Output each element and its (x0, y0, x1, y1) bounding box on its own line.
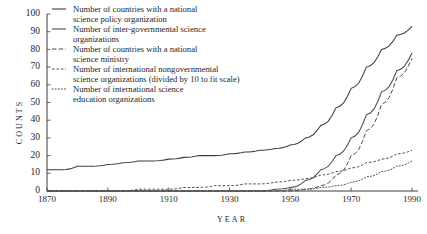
chart-figure: 0102030405060708090100 18701890191019301… (0, 0, 427, 234)
svg-text:1990: 1990 (403, 194, 422, 204)
svg-text:40: 40 (31, 114, 41, 124)
legend-label-4-line1: Number of international nongovernmental (73, 64, 219, 74)
y-axis-title: COUNTS (15, 100, 24, 145)
svg-text:1970: 1970 (342, 194, 361, 204)
chart-legend: Number of countries with a nationalscien… (52, 4, 240, 104)
svg-text:60: 60 (31, 79, 41, 89)
legend-label-2-line1: Number of inter-governmental science (73, 24, 206, 34)
legend-label-4-line2: science organizations (divided by 10 to … (73, 74, 240, 84)
legend-label-5-line2: education organizations (73, 94, 155, 104)
x-axis-tick-labels: 1870189019101930195019701990 (38, 194, 422, 204)
svg-text:80: 80 (31, 44, 41, 54)
y-axis-tick-marks (47, 14, 51, 191)
svg-text:1910: 1910 (160, 194, 179, 204)
svg-text:90: 90 (31, 26, 41, 36)
svg-text:20: 20 (31, 150, 41, 160)
x-axis-title: YEAR (217, 215, 247, 224)
svg-text:1950: 1950 (281, 194, 300, 204)
y-axis-tick-labels: 0102030405060708090100 (26, 8, 41, 195)
svg-text:10: 10 (31, 167, 41, 177)
legend-label-3-line1: Number of countries with a national (73, 44, 198, 54)
svg-text:1930: 1930 (221, 194, 240, 204)
legend-label-1-line1: Number of countries with a national (73, 4, 198, 14)
legend-label-2-line2: organizations (73, 34, 120, 44)
legend-label-1-line2: science policy organization (73, 14, 168, 24)
line-chart-svg: 0102030405060708090100 18701890191019301… (0, 0, 427, 234)
series-line-4 (47, 150, 412, 191)
svg-text:30: 30 (31, 132, 41, 142)
svg-text:70: 70 (31, 61, 41, 71)
svg-text:1890: 1890 (99, 194, 118, 204)
svg-text:50: 50 (31, 97, 41, 107)
legend-label-3-line2: science ministry (73, 54, 130, 64)
legend-label-5-line1: Number of international science (73, 84, 184, 94)
svg-text:100: 100 (26, 8, 41, 18)
svg-text:1870: 1870 (38, 194, 57, 204)
